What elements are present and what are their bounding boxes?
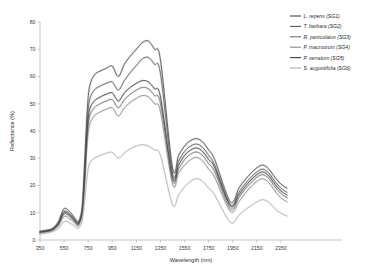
- x-tick-label: 350: [36, 245, 45, 251]
- legend-item-label: P. serratum (SG5): [304, 55, 345, 61]
- legend-item[interactable]: P. macrourum (SG4): [290, 44, 350, 50]
- x-tick-label: 950: [108, 245, 117, 251]
- legend-item-label: S. augustifolia (SG6): [304, 65, 351, 71]
- legend: L. repens (SG1)T. barbara (SG2)R. panicu…: [290, 13, 351, 71]
- legend-item-label: T. barbara (SG2): [304, 23, 342, 29]
- legend-item-label: P. macrourum (SG4): [304, 44, 351, 50]
- y-tick-label: 50: [30, 101, 36, 107]
- y-tick-label: 80: [30, 19, 36, 25]
- x-axis: 3505507509501150135015501750195021502350: [36, 240, 342, 251]
- y-axis-title: Reflectance (%): [9, 111, 15, 151]
- x-tick-label: 550: [60, 245, 69, 251]
- spectra-group: [40, 41, 287, 234]
- x-tick-label: 1550: [179, 245, 191, 251]
- y-tick-label: 20: [30, 182, 36, 188]
- y-tick-label: 30: [30, 155, 36, 161]
- x-axis-title: Wavelength (nm): [170, 257, 213, 263]
- legend-item[interactable]: T. barbara (SG2): [290, 23, 342, 29]
- y-tick-label: 40: [30, 128, 36, 134]
- x-tick-label: 1150: [131, 245, 142, 251]
- legend-item[interactable]: L. repens (SG1): [290, 13, 340, 19]
- x-tick-label: 1950: [227, 245, 239, 251]
- legend-item[interactable]: S. augustifolia (SG6): [290, 65, 351, 71]
- y-tick-label: 60: [30, 73, 36, 79]
- legend-item[interactable]: R. paniculatus (SG3): [290, 34, 351, 40]
- y-tick-label: 10: [30, 210, 36, 216]
- spectral-reflectance-chart: 0102030405060708035055075095011501350155…: [0, 0, 378, 279]
- legend-item[interactable]: P. serratum (SG5): [290, 55, 344, 61]
- x-tick-label: 750: [84, 245, 93, 251]
- legend-item-label: L. repens (SG1): [304, 13, 341, 19]
- x-tick-label: 1750: [203, 245, 215, 251]
- y-axis: 01020304050607080: [30, 19, 40, 243]
- y-tick-label: 70: [30, 46, 36, 52]
- x-tick-label: 2350: [275, 245, 287, 251]
- chart-canvas: 0102030405060708035055075095011501350155…: [0, 0, 378, 279]
- legend-item-label: R. paniculatus (SG3): [304, 34, 352, 40]
- x-tick-label: 2150: [251, 245, 263, 251]
- y-tick-label: 0: [33, 237, 36, 243]
- x-tick-label: 1350: [155, 245, 167, 251]
